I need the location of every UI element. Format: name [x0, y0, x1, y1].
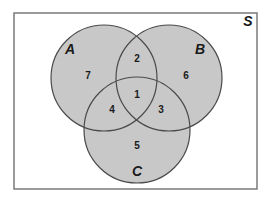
universe-label: S	[243, 13, 253, 29]
region-a-b-c: 1	[134, 89, 140, 100]
set-c-label: C	[132, 163, 143, 179]
region-a-only: 7	[85, 70, 91, 81]
region-c-only: 5	[134, 140, 140, 151]
region-b-only: 6	[183, 70, 189, 81]
region-a-and-c: 4	[109, 104, 115, 115]
set-b-label: B	[195, 41, 205, 57]
set-a-label: A	[64, 41, 75, 57]
region-b-and-c: 3	[158, 104, 164, 115]
region-a-and-b: 2	[134, 53, 140, 64]
venn-diagram: S A B C 7 2 6 1 4 3 5	[0, 0, 272, 198]
